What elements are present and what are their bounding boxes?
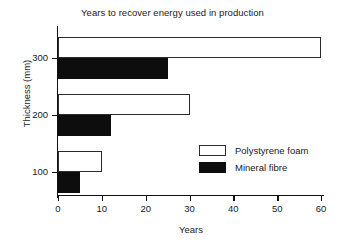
bar-mineral-fibre-200 <box>58 115 111 136</box>
x-tick-label-20: 20 <box>131 203 161 214</box>
legend-item-polystyrene-foam: Polystyrene foam <box>199 142 308 159</box>
x-tick-label-0: 0 <box>43 203 73 214</box>
legend-label-polystyrene-foam: Polystyrene foam <box>235 145 308 156</box>
legend-swatch-open <box>199 145 226 156</box>
bar-polystyrene-foam-200 <box>58 94 190 115</box>
chart-container: Years to recover energy used in producti… <box>0 0 345 247</box>
y-tick-label-100: 100 <box>8 166 48 177</box>
x-tick-40 <box>233 196 234 201</box>
legend-swatch-filled <box>199 162 226 173</box>
bar-polystyrene-foam-300 <box>58 37 321 58</box>
bar-polystyrene-foam-100 <box>58 151 102 172</box>
x-tick-50 <box>277 196 278 201</box>
x-tick-20 <box>146 196 147 201</box>
y-tick-label-200: 200 <box>8 109 48 120</box>
bar-mineral-fibre-300 <box>58 58 168 79</box>
x-tick-label-30: 30 <box>175 203 205 214</box>
x-tick-0 <box>58 196 59 201</box>
x-tick-10 <box>102 196 103 201</box>
legend-label-mineral-fibre: Mineral fibre <box>235 162 287 173</box>
x-tick-label-40: 40 <box>218 203 248 214</box>
legend-item-mineral-fibre: Mineral fibre <box>199 159 308 176</box>
x-tick-label-60: 60 <box>306 203 336 214</box>
x-tick-60 <box>321 196 322 201</box>
x-tick-label-50: 50 <box>262 203 292 214</box>
chart-title: Years to recover energy used in producti… <box>0 7 345 18</box>
y-tick-label-300: 300 <box>8 52 48 63</box>
chart-legend: Polystyrene foam Mineral fibre <box>199 142 308 176</box>
x-axis-title: Years <box>58 224 324 235</box>
x-tick-label-10: 10 <box>87 203 117 214</box>
bar-mineral-fibre-100 <box>58 172 80 193</box>
x-tick-30 <box>190 196 191 201</box>
